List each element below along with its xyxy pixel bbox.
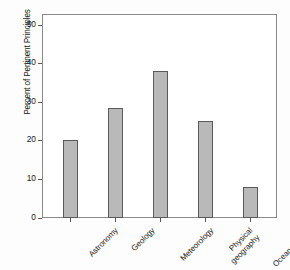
y-tick-mark-0 bbox=[38, 218, 42, 219]
bar-physical-geography bbox=[198, 121, 213, 218]
x-label-geology: Geology bbox=[130, 226, 157, 253]
x-label-meteorology: Meteorology bbox=[179, 226, 216, 263]
y-tick-10: 10 bbox=[0, 179, 42, 180]
bar-meteorology bbox=[153, 71, 168, 218]
y-tick-20: 20 bbox=[0, 140, 42, 141]
y-tick-0: 0 bbox=[0, 218, 42, 219]
bar-oceanography bbox=[243, 187, 258, 218]
y-tick-40: 40 bbox=[0, 63, 42, 64]
y-tick-label-40: 40 bbox=[27, 57, 36, 67]
y-tick-label-0: 0 bbox=[31, 212, 36, 222]
y-tick-50: 50 bbox=[0, 25, 42, 26]
y-tick-label-10: 10 bbox=[27, 173, 36, 183]
x-tick-mark-meteorology bbox=[160, 218, 161, 222]
y-tick-30: 30 bbox=[0, 102, 42, 103]
x-tick-mark-physical-geography bbox=[205, 218, 206, 222]
y-tick-label-50: 50 bbox=[27, 19, 36, 29]
x-tick-mark-astronomy bbox=[70, 218, 71, 222]
y-tick-label-30: 30 bbox=[27, 96, 36, 106]
x-label-physical-geography: Physical geography bbox=[222, 226, 262, 266]
x-tick-mark-geology bbox=[115, 218, 116, 222]
bar-astronomy bbox=[63, 140, 78, 218]
x-label-oceanography: Oceanography bbox=[271, 226, 290, 269]
bar-chart: Percent of Pertinent Principles 0 10 20 … bbox=[0, 0, 290, 270]
y-tick-label-20: 20 bbox=[27, 134, 36, 144]
bar-geology bbox=[108, 108, 123, 218]
x-tick-mark-oceanography bbox=[250, 218, 251, 222]
x-label-astronomy: Astronomy bbox=[87, 226, 120, 259]
